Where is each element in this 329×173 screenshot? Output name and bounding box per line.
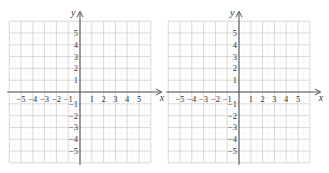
coordinate-grid-right: xy−5−4−3−2−11234554321−1−2−3−4−5 bbox=[159, 0, 324, 173]
x-tick-label: −5 bbox=[175, 94, 184, 104]
coordinate-grid-left: xy−5−4−3−2−11234554321−1−2−3−4−5 bbox=[0, 0, 165, 173]
x-tick-label: −3 bbox=[40, 94, 49, 104]
grid-svg: xy−5−4−3−2−11234554321−1−2−3−4−5 bbox=[159, 0, 329, 173]
x-tick-label: 3 bbox=[272, 94, 276, 104]
y-tick-label: 3 bbox=[74, 52, 78, 62]
y-axis-label: y bbox=[70, 7, 76, 18]
y-tick-label: 1 bbox=[233, 75, 237, 85]
x-tick-label: −5 bbox=[16, 94, 25, 104]
y-tick-label: −3 bbox=[228, 122, 237, 132]
y-tick-label: −4 bbox=[69, 134, 79, 144]
x-tick-label: 1 bbox=[90, 94, 94, 104]
x-tick-label: 2 bbox=[260, 94, 264, 104]
y-tick-label: 5 bbox=[233, 28, 237, 38]
y-tick-label: 3 bbox=[233, 52, 237, 62]
y-tick-label: 2 bbox=[74, 63, 78, 73]
y-tick-label: −1 bbox=[69, 99, 78, 109]
x-tick-label: −3 bbox=[199, 94, 208, 104]
y-tick-label: −2 bbox=[69, 111, 78, 121]
y-tick-label: 5 bbox=[74, 28, 78, 38]
y-tick-label: −3 bbox=[69, 122, 78, 132]
x-tick-label: 3 bbox=[113, 94, 117, 104]
x-tick-label: 5 bbox=[296, 94, 300, 104]
x-axis-label: x bbox=[318, 92, 324, 103]
x-tick-label: −2 bbox=[211, 94, 220, 104]
x-tick-label: −4 bbox=[28, 94, 38, 104]
y-tick-label: −1 bbox=[228, 99, 237, 109]
x-tick-label: −2 bbox=[52, 94, 61, 104]
x-tick-label: 4 bbox=[125, 94, 130, 104]
x-tick-label: 5 bbox=[137, 94, 141, 104]
y-axis-label: y bbox=[229, 7, 235, 18]
y-tick-label: −5 bbox=[228, 146, 237, 156]
y-tick-label: −2 bbox=[228, 111, 237, 121]
y-tick-label: 2 bbox=[233, 63, 237, 73]
y-tick-label: 1 bbox=[74, 75, 78, 85]
x-tick-label: −4 bbox=[187, 94, 197, 104]
grid-svg: xy−5−4−3−2−11234554321−1−2−3−4−5 bbox=[0, 0, 165, 173]
x-tick-label: 4 bbox=[284, 94, 289, 104]
x-tick-label: 2 bbox=[101, 94, 105, 104]
y-tick-label: −4 bbox=[228, 134, 238, 144]
y-tick-label: −5 bbox=[69, 146, 78, 156]
x-tick-label: 1 bbox=[249, 94, 253, 104]
